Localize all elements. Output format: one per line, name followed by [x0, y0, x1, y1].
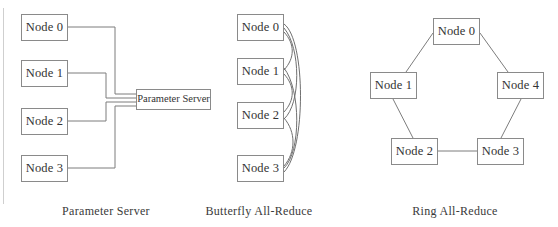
- node-box-butterfly-all-reduce-3: Node 3: [237, 155, 284, 182]
- figure-canvas: Node 0Node 1Node 2Node 3Parameter Server…: [0, 0, 558, 227]
- node-box-butterfly-all-reduce-2: Node 2: [237, 102, 284, 129]
- node-box-parameter-server-0: Node 0: [21, 14, 68, 41]
- edge-group-butterfly-all-reduce: [284, 24, 301, 172]
- edge-ring-all-reduce-3: [501, 99, 521, 138]
- node-box-ring-all-reduce-1: Node 1: [370, 72, 417, 99]
- edge-ring-all-reduce-1: [480, 33, 508, 72]
- edge-butterfly-all-reduce-4: [284, 74, 292, 112]
- edge-butterfly-all-reduce-3: [284, 32, 292, 70]
- edge-ring-all-reduce-0: [406, 33, 433, 72]
- edge-parameter-server-3: [68, 106, 136, 168]
- node-box-ring-all-reduce-4: Node 3: [477, 138, 524, 165]
- node-box-butterfly-all-reduce-1: Node 1: [237, 58, 284, 85]
- node-box-ring-all-reduce-0: Node 0: [433, 18, 480, 45]
- edge-parameter-server-0: [68, 27, 136, 94]
- node-box-parameter-server-3: Node 3: [21, 155, 68, 182]
- node-box-ring-all-reduce-2: Node 4: [497, 72, 544, 99]
- node-box-ring-all-reduce-3: Node 2: [391, 138, 438, 165]
- parameter-server-box: Parameter Server: [136, 89, 211, 110]
- caption-ring-all-reduce: Ring All-Reduce: [412, 204, 498, 219]
- edge-ring-all-reduce-2: [393, 99, 413, 138]
- caption-butterfly-all-reduce: Butterfly All-Reduce: [206, 204, 313, 219]
- node-box-parameter-server-2: Node 2: [21, 108, 68, 135]
- node-box-butterfly-all-reduce-0: Node 0: [237, 14, 284, 41]
- edge-group-parameter-server: [68, 27, 136, 168]
- caption-parameter-server: Parameter Server: [62, 204, 150, 219]
- node-box-parameter-server-1: Node 1: [21, 60, 68, 87]
- page-margin-rule: [3, 8, 4, 204]
- edge-parameter-server-2: [68, 102, 136, 121]
